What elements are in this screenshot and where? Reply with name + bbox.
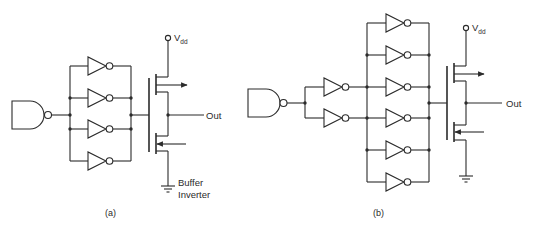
inverter-icon xyxy=(70,89,131,107)
inverter-icon xyxy=(367,78,429,96)
inverter-icon xyxy=(70,120,131,138)
inverter-label: Inverter xyxy=(178,189,210,200)
panel-a: Vdd Out Buffer Inverter (a) xyxy=(12,32,222,218)
inverter-icon xyxy=(367,173,429,191)
ground-icon xyxy=(161,186,175,192)
vdd-terminal-icon xyxy=(165,35,170,40)
inverter-icon xyxy=(305,78,367,96)
nand-gate-icon xyxy=(248,89,287,117)
inverter-icon xyxy=(70,57,131,75)
output-label-a: Out xyxy=(206,110,222,121)
inverter-icon xyxy=(70,152,131,170)
output-label-b: Out xyxy=(506,98,522,109)
nand-gate-icon xyxy=(12,101,52,129)
buffer-label: Buffer xyxy=(178,177,203,188)
circuit-diagram: Vdd Out Buffer Inverter (a) xyxy=(0,0,533,229)
vdd-label-b: Vdd xyxy=(472,22,486,35)
vdd-label-a: Vdd xyxy=(174,32,188,45)
inverter-icon xyxy=(367,141,429,159)
vdd-terminal-icon xyxy=(463,25,468,30)
ground-icon xyxy=(459,176,473,182)
caption-b: (b) xyxy=(373,208,384,218)
caption-a: (a) xyxy=(105,208,116,218)
inverter-icon xyxy=(367,109,429,127)
inverter-icon xyxy=(367,14,429,32)
inverter-icon xyxy=(367,46,429,64)
panel-b: Vdd Out (b) xyxy=(248,14,522,218)
inverter-icon xyxy=(305,109,367,127)
